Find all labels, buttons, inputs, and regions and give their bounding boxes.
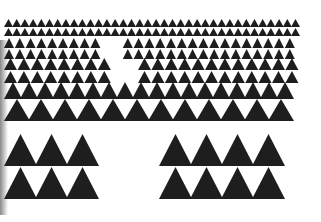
triangle-icon bbox=[144, 38, 154, 48]
triangle-icon bbox=[35, 167, 68, 199]
triangle-icon bbox=[17, 71, 30, 83]
triangle-icon bbox=[70, 19, 79, 27]
triangle-icon bbox=[86, 19, 95, 27]
triangle-icon bbox=[111, 19, 120, 27]
triangle-row bbox=[4, 134, 285, 166]
triangle-icon bbox=[220, 38, 230, 48]
triangle-pattern bbox=[0, 0, 321, 222]
triangle-icon bbox=[178, 58, 191, 70]
triangle-icon bbox=[231, 38, 241, 48]
triangle-icon bbox=[184, 19, 193, 27]
triangle-icon bbox=[44, 71, 57, 83]
triangle-icon bbox=[283, 28, 292, 36]
triangle-icon bbox=[285, 58, 298, 70]
triangle-icon bbox=[209, 49, 219, 59]
triangle-icon bbox=[58, 71, 71, 83]
triangle-icon bbox=[168, 28, 177, 36]
triangle-icon bbox=[116, 82, 134, 99]
triangle-icon bbox=[192, 71, 205, 83]
triangle-icon bbox=[252, 167, 285, 199]
triangle-icon bbox=[71, 58, 84, 70]
triangle-icon bbox=[196, 82, 214, 99]
triangle-icon bbox=[196, 99, 222, 121]
triangle-icon bbox=[98, 58, 111, 70]
triangle-icon bbox=[123, 49, 133, 59]
triangle-icon bbox=[291, 28, 300, 36]
triangle-icon bbox=[165, 58, 178, 70]
triangle-icon bbox=[244, 99, 270, 121]
triangle-icon bbox=[155, 49, 165, 59]
triangle-icon bbox=[61, 28, 70, 36]
triangle-row bbox=[4, 38, 295, 48]
triangle-icon bbox=[4, 28, 13, 36]
triangle-icon bbox=[80, 49, 90, 59]
triangle-icon bbox=[221, 167, 254, 199]
scan-shadow bbox=[0, 40, 8, 215]
triangle-icon bbox=[274, 38, 284, 48]
triangle-icon bbox=[86, 28, 95, 36]
triangle-icon bbox=[234, 19, 243, 27]
triangle-icon bbox=[176, 28, 185, 36]
triangle-icon bbox=[201, 28, 210, 36]
triangle-icon bbox=[58, 38, 68, 48]
triangle-icon bbox=[123, 38, 133, 48]
triangle-icon bbox=[71, 71, 84, 83]
triangle-icon bbox=[159, 167, 192, 199]
triangle-icon bbox=[259, 71, 272, 83]
triangle-icon bbox=[94, 28, 103, 36]
triangle-icon bbox=[47, 49, 57, 59]
triangle-icon bbox=[250, 19, 259, 27]
triangle-icon bbox=[12, 28, 21, 36]
triangle-icon bbox=[84, 71, 97, 83]
triangle-icon bbox=[138, 71, 151, 83]
triangle-icon bbox=[220, 99, 246, 121]
triangle-icon bbox=[53, 28, 62, 36]
triangle-icon bbox=[143, 19, 152, 27]
triangle-row bbox=[4, 49, 295, 59]
triangle-icon bbox=[36, 49, 46, 59]
triangle-icon bbox=[155, 38, 165, 48]
triangle-icon bbox=[29, 28, 38, 36]
triangle-icon bbox=[245, 58, 258, 70]
triangle-icon bbox=[252, 49, 262, 59]
triangle-icon bbox=[135, 19, 144, 27]
triangle-icon bbox=[138, 58, 151, 70]
triangle-icon bbox=[217, 28, 226, 36]
triangle-icon bbox=[188, 38, 198, 48]
triangle-icon bbox=[15, 49, 25, 59]
triangle-icon bbox=[37, 28, 46, 36]
triangle-icon bbox=[58, 49, 68, 59]
triangle-row bbox=[4, 71, 298, 83]
triangle-icon bbox=[78, 19, 87, 27]
triangle-icon bbox=[143, 28, 152, 36]
triangle-icon bbox=[84, 82, 102, 99]
triangle-icon bbox=[44, 58, 57, 70]
triangle-icon bbox=[127, 28, 136, 36]
triangle-icon bbox=[17, 58, 30, 70]
triangle-icon bbox=[69, 49, 79, 59]
triangle-icon bbox=[263, 38, 273, 48]
triangle-icon bbox=[193, 19, 202, 27]
triangle-icon bbox=[111, 28, 120, 36]
triangle-icon bbox=[275, 28, 284, 36]
triangle-icon bbox=[198, 38, 208, 48]
triangle-icon bbox=[166, 49, 176, 59]
triangle-icon bbox=[12, 19, 21, 27]
triangle-icon bbox=[274, 49, 284, 59]
triangle-icon bbox=[201, 19, 210, 27]
triangle-icon bbox=[209, 38, 219, 48]
triangle-icon bbox=[166, 38, 176, 48]
triangle-icon bbox=[152, 28, 161, 36]
triangle-icon bbox=[134, 49, 144, 59]
triangle-icon bbox=[28, 99, 54, 121]
triangle-icon bbox=[193, 28, 202, 36]
triangle-icon bbox=[20, 82, 38, 99]
triangle-icon bbox=[90, 38, 100, 48]
triangle-icon bbox=[61, 19, 70, 27]
triangle-icon bbox=[188, 49, 198, 59]
triangle-icon bbox=[266, 19, 275, 27]
triangle-icon bbox=[209, 28, 218, 36]
triangle-icon bbox=[159, 134, 192, 166]
triangle-icon bbox=[31, 58, 44, 70]
triangle-icon bbox=[263, 49, 273, 59]
